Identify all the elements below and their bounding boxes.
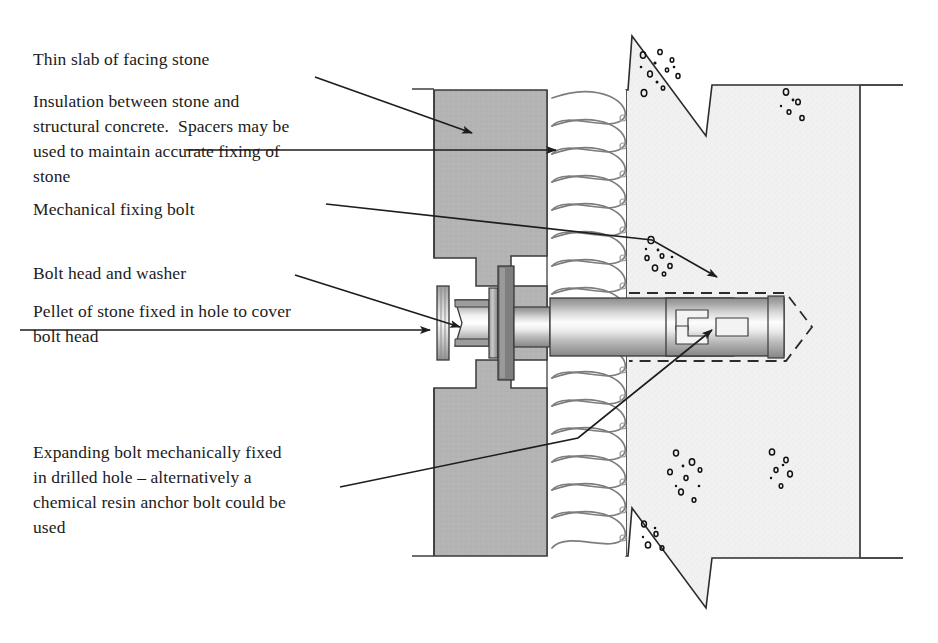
label-bolt-head-and-washer: Bolt head and washer: [33, 261, 333, 286]
label-mechanical-fixing-bolt: Mechanical fixing bolt: [33, 197, 333, 222]
bolt-head: [455, 300, 489, 346]
label-expanding-bolt: Expanding bolt mechanically fixed in dri…: [33, 440, 353, 540]
diagram-page: Thin slab of facing stone Insulation bet…: [0, 0, 938, 643]
label-insulation: Insulation between stone and structural …: [33, 89, 343, 189]
expansion-sleeve: [666, 296, 784, 358]
label-stone-pellet: Pellet of stone fixed in hole to cover b…: [33, 299, 363, 349]
label-facing-stone: Thin slab of facing stone: [33, 47, 323, 72]
